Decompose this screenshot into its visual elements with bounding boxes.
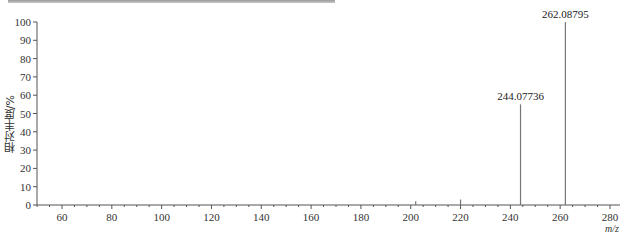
y-axis-label: 相对丰度/% (3, 95, 17, 153)
y-tick-label: 100 (15, 16, 32, 28)
x-tick-label: 200 (402, 211, 419, 223)
x-tick-label: 240 (502, 211, 519, 223)
y-tick-label: 10 (20, 181, 32, 193)
x-axis-label: m/z (605, 223, 619, 234)
x-tick-label: 180 (353, 211, 370, 223)
x-tick-label: 220 (452, 211, 469, 223)
x-tick-label: 260 (552, 211, 569, 223)
x-tick-label: 80 (106, 211, 118, 223)
x-tick-label: 120 (203, 211, 220, 223)
x-tick-label: 160 (303, 211, 320, 223)
x-tick-label: 280 (602, 211, 619, 223)
chart-peaks: 244.07736262.08795 (416, 8, 590, 205)
y-tick-label: 20 (20, 162, 32, 174)
chart-axes: 0102030405060708090100608010012014016018… (15, 16, 621, 223)
y-tick-label: 80 (20, 53, 32, 65)
mass-spectrum-chart: 0102030405060708090100608010012014016018… (0, 0, 625, 238)
peak-label: 262.08795 (542, 8, 589, 20)
y-tick-label: 40 (20, 126, 32, 138)
x-tick-label: 60 (57, 211, 69, 223)
y-tick-label: 70 (20, 71, 32, 83)
y-tick-label: 50 (20, 108, 32, 120)
y-tick-label: 60 (20, 89, 32, 101)
x-tick-label: 140 (253, 211, 270, 223)
peak-label: 244.07736 (497, 90, 544, 102)
y-tick-label: 90 (20, 34, 32, 46)
x-tick-label: 100 (153, 211, 170, 223)
y-tick-label: 30 (20, 144, 32, 156)
y-tick-label: 0 (26, 199, 32, 211)
